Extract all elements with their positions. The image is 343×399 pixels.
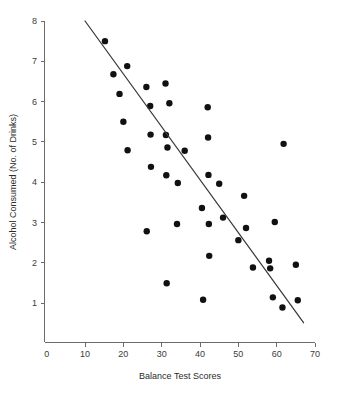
data-point — [124, 147, 130, 153]
data-point — [235, 237, 241, 243]
data-point — [206, 253, 212, 259]
scatter-chart-figure: 12345678 010203040506070 Balance Test Sc… — [0, 0, 343, 399]
y-tick-label: 1 — [32, 298, 37, 308]
data-point — [266, 258, 272, 264]
x-tick-label: 50 — [233, 349, 243, 359]
plot-area: 12345678 010203040506070 Balance Test Sc… — [0, 0, 343, 399]
x-axis-title: Balance Test Scores — [139, 371, 221, 381]
data-point — [199, 205, 205, 211]
data-point — [272, 219, 278, 225]
x-tick-label: 40 — [195, 349, 205, 359]
data-point — [241, 193, 247, 199]
data-point — [147, 131, 153, 137]
data-point — [124, 63, 130, 69]
data-point — [205, 104, 211, 110]
y-tick-label: 6 — [32, 97, 37, 107]
data-point — [280, 141, 286, 147]
data-point — [143, 84, 149, 90]
data-point — [205, 134, 211, 140]
x-tick-label: 70 — [310, 349, 320, 359]
data-point — [250, 264, 256, 270]
data-point — [102, 38, 108, 44]
x-tick-label: 10 — [80, 349, 90, 359]
data-point — [162, 80, 168, 86]
data-point — [295, 297, 301, 303]
y-tick-label: 7 — [32, 56, 37, 66]
data-point — [270, 294, 276, 300]
data-point — [166, 100, 172, 106]
data-point — [174, 221, 180, 227]
y-tick-label: 2 — [32, 258, 37, 268]
data-point — [116, 91, 122, 97]
data-point — [205, 172, 211, 178]
data-point — [243, 225, 249, 231]
x-tick-label: 0 — [44, 349, 49, 359]
y-tick-label: 4 — [32, 177, 37, 187]
data-point — [200, 297, 206, 303]
x-tick-label: 30 — [157, 349, 167, 359]
data-point — [163, 280, 169, 286]
data-point — [175, 180, 181, 186]
x-tick-label: 20 — [118, 349, 128, 359]
y-tick-label: 8 — [32, 16, 37, 26]
data-point — [163, 172, 169, 178]
data-point — [164, 144, 170, 150]
x-tick-label: 60 — [272, 349, 282, 359]
data-point — [148, 164, 154, 170]
data-point — [110, 71, 116, 77]
y-tick-label: 3 — [32, 218, 37, 228]
data-point — [182, 148, 188, 154]
y-axis-title: Alcohol Consumed (No. of Drinks) — [8, 114, 18, 250]
data-point — [120, 119, 126, 125]
data-point — [267, 265, 273, 271]
data-point — [206, 221, 212, 227]
data-point — [216, 181, 222, 187]
data-point — [144, 228, 150, 234]
data-point — [293, 262, 299, 268]
figure-background — [0, 0, 343, 399]
data-point — [279, 304, 285, 310]
y-tick-label: 5 — [32, 137, 37, 147]
